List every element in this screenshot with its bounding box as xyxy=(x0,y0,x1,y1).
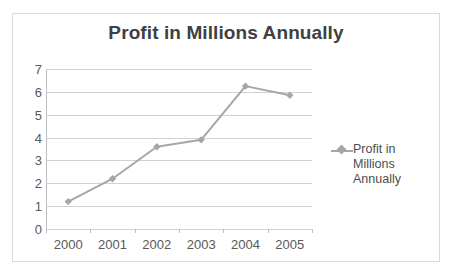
x-axis-tick-mark xyxy=(268,229,269,233)
y-axis-tick-label: 6 xyxy=(16,84,42,99)
x-axis-tick-mark xyxy=(90,229,91,233)
x-axis-tick-label: 2004 xyxy=(223,237,269,252)
series-line xyxy=(68,86,290,201)
x-axis-tick-label: 2002 xyxy=(134,237,180,252)
legend-diamond-swatch xyxy=(337,145,347,155)
y-axis-tick-label: 4 xyxy=(16,130,42,145)
data-point-marker xyxy=(64,198,71,205)
x-axis-tick-mark xyxy=(223,229,224,233)
x-axis-tick-mark xyxy=(135,229,136,233)
legend-item: Profit in Millions Annually xyxy=(331,142,435,187)
y-axis-tick-label: 0 xyxy=(16,222,42,237)
x-axis-tick-mark xyxy=(312,229,313,233)
y-axis-tick-label: 2 xyxy=(16,176,42,191)
x-axis-tick-label: 2000 xyxy=(45,237,91,252)
x-axis-tick-label: 2005 xyxy=(267,237,313,252)
x-axis-tick-mark xyxy=(179,229,180,233)
plot-area xyxy=(46,69,312,229)
x-axis-tick-label: 2001 xyxy=(90,237,136,252)
legend-item-label: Profit in Millions Annually xyxy=(353,142,435,187)
chart-legend: Profit in Millions Annually xyxy=(331,142,435,187)
diamond-marker-icon xyxy=(331,142,353,159)
x-axis-tick-label: 2003 xyxy=(178,237,224,252)
y-axis-tick-label: 3 xyxy=(16,153,42,168)
x-axis-tick-mark xyxy=(46,229,47,233)
series-line-profit-in-millions-annually xyxy=(46,69,312,229)
data-point-marker xyxy=(286,92,293,99)
y-axis-tick-label: 7 xyxy=(16,62,42,77)
chart-title: Profit in Millions Annually xyxy=(13,22,439,44)
y-axis-tick-label: 5 xyxy=(16,107,42,122)
y-axis-tick-labels: 01234567 xyxy=(13,69,42,230)
y-axis-tick-label: 1 xyxy=(16,199,42,214)
chart-container: Profit in Millions Annually 01234567 200… xyxy=(12,13,440,262)
